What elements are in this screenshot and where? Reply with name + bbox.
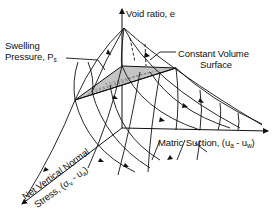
void-ratio-axis-label: Void ratio, e <box>126 8 175 19</box>
constant-volume-surface-label: Constant Volume Surface <box>178 48 249 70</box>
matric-suction-axis-label: Matric Suction, (ua - uw) <box>158 137 255 151</box>
swelling-pressure-line2: Pressure, Ps <box>5 51 57 65</box>
swelling-pressure-leader <box>66 58 105 70</box>
constant-volume-line2: Surface <box>178 59 249 70</box>
swelling-pressure-line1: Swelling <box>5 40 57 51</box>
constant-volume-line1: Constant Volume <box>178 48 249 59</box>
swelling-pressure-label: Swelling Pressure, Ps <box>5 40 57 65</box>
